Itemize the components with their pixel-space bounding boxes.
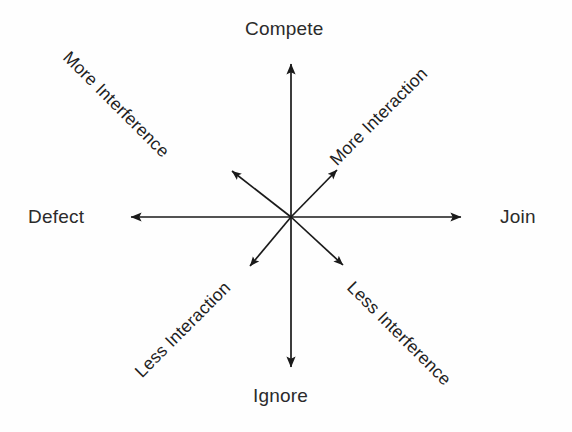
diagram-canvas: Compete Ignore Defect Join More Interfer… bbox=[0, 0, 572, 432]
axis-label-ignore: Ignore bbox=[253, 385, 308, 407]
northwest-axis-line bbox=[232, 171, 291, 217]
southeast-axis-line bbox=[291, 217, 343, 265]
axis-label-defect: Defect bbox=[28, 206, 84, 228]
northeast-axis-line bbox=[291, 170, 337, 217]
axis-label-join: Join bbox=[500, 206, 536, 228]
axis-label-compete: Compete bbox=[245, 18, 324, 40]
southwest-axis-line bbox=[250, 217, 291, 266]
